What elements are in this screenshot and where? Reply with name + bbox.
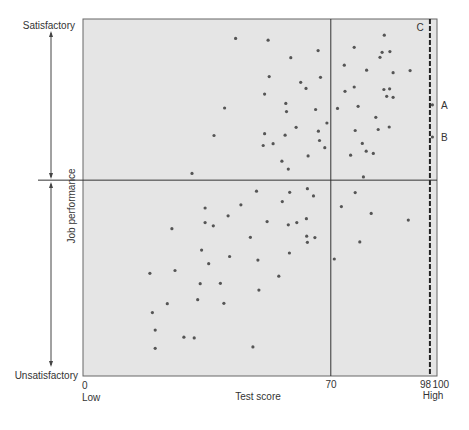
data-point bbox=[263, 132, 266, 135]
data-point bbox=[307, 154, 310, 157]
data-point bbox=[343, 64, 346, 67]
job-performance-arrow bbox=[49, 31, 53, 367]
data-point bbox=[409, 69, 412, 72]
data-point bbox=[377, 128, 380, 131]
plot-area bbox=[83, 19, 437, 376]
data-point bbox=[287, 168, 290, 171]
x-tick-70: 70 bbox=[325, 379, 337, 390]
data-point bbox=[288, 251, 291, 254]
data-point bbox=[288, 191, 291, 194]
data-point bbox=[383, 34, 386, 37]
data-point bbox=[312, 194, 315, 197]
data-point bbox=[382, 88, 385, 91]
x-tick-0: 0 bbox=[82, 380, 88, 391]
data-point bbox=[388, 125, 391, 128]
data-point bbox=[272, 142, 275, 145]
x-axis-title: Test score bbox=[235, 391, 281, 402]
data-point bbox=[392, 96, 395, 99]
data-point bbox=[199, 282, 202, 285]
data-point bbox=[212, 134, 215, 137]
data-point bbox=[284, 102, 287, 105]
y-axis-title: Job performance bbox=[66, 168, 77, 243]
data-point bbox=[306, 187, 309, 190]
data-point bbox=[358, 240, 361, 243]
data-point bbox=[354, 191, 357, 194]
data-point bbox=[268, 75, 271, 78]
data-point bbox=[374, 116, 377, 119]
data-point bbox=[353, 46, 356, 49]
data-point bbox=[378, 56, 381, 59]
x-low-label: Low bbox=[82, 392, 101, 403]
marker-c-label: C bbox=[416, 22, 423, 33]
data-point bbox=[255, 190, 258, 193]
data-point bbox=[318, 139, 321, 142]
data-point bbox=[234, 37, 237, 40]
data-point bbox=[190, 172, 193, 175]
data-point bbox=[239, 203, 242, 206]
data-point bbox=[262, 144, 265, 147]
data-point bbox=[295, 221, 298, 224]
data-point bbox=[256, 259, 259, 262]
data-point bbox=[154, 347, 157, 350]
data-point bbox=[333, 257, 336, 260]
data-point bbox=[212, 224, 215, 227]
scatter-chart: Satisfactory Unsatisfactory Job performa… bbox=[0, 0, 469, 430]
data-point bbox=[323, 146, 326, 149]
data-point bbox=[251, 345, 254, 348]
data-point bbox=[295, 126, 298, 129]
data-point bbox=[154, 329, 157, 332]
data-point bbox=[284, 134, 287, 137]
data-point bbox=[365, 69, 368, 72]
data-point bbox=[319, 76, 322, 79]
data-point bbox=[306, 241, 309, 244]
data-point bbox=[340, 205, 343, 208]
data-point bbox=[280, 160, 283, 163]
marker-b-label: B bbox=[441, 132, 448, 143]
data-point bbox=[392, 71, 395, 74]
data-point bbox=[357, 105, 360, 108]
data-point bbox=[281, 200, 284, 203]
data-point bbox=[207, 262, 210, 265]
data-point bbox=[299, 81, 302, 84]
data-point bbox=[361, 142, 364, 145]
data-point bbox=[325, 121, 328, 124]
data-point bbox=[285, 110, 288, 113]
data-point bbox=[353, 85, 356, 88]
data-point bbox=[267, 39, 270, 42]
marker-a-label: A bbox=[441, 100, 448, 111]
data-point bbox=[388, 87, 391, 90]
arrow-down-icon bbox=[49, 361, 53, 367]
data-point bbox=[362, 175, 365, 178]
data-point bbox=[277, 275, 280, 278]
data-point bbox=[365, 150, 368, 153]
data-point bbox=[381, 51, 384, 54]
data-point bbox=[304, 87, 307, 90]
data-point bbox=[385, 95, 388, 98]
data-point bbox=[204, 206, 207, 209]
data-point bbox=[182, 336, 185, 339]
data-point bbox=[227, 214, 230, 217]
data-point bbox=[166, 302, 169, 305]
data-point bbox=[314, 108, 317, 111]
data-point bbox=[228, 255, 231, 258]
data-point bbox=[372, 152, 375, 155]
x-tick-100: 100 bbox=[433, 379, 450, 390]
data-point bbox=[431, 103, 434, 106]
x-tick-98: 98 bbox=[420, 379, 432, 390]
data-point bbox=[407, 219, 410, 222]
data-point bbox=[343, 90, 346, 93]
data-point bbox=[196, 298, 199, 301]
data-point bbox=[151, 311, 154, 314]
data-point bbox=[148, 272, 151, 275]
data-point bbox=[222, 302, 225, 305]
data-point bbox=[193, 336, 196, 339]
data-point bbox=[263, 93, 266, 96]
data-point bbox=[317, 130, 320, 133]
x-high-label: High bbox=[423, 390, 444, 401]
data-point bbox=[370, 212, 373, 215]
data-point bbox=[289, 56, 292, 59]
data-point bbox=[266, 220, 269, 223]
data-point bbox=[305, 217, 308, 220]
data-point bbox=[173, 269, 176, 272]
y-top-label: Satisfactory bbox=[23, 20, 75, 31]
